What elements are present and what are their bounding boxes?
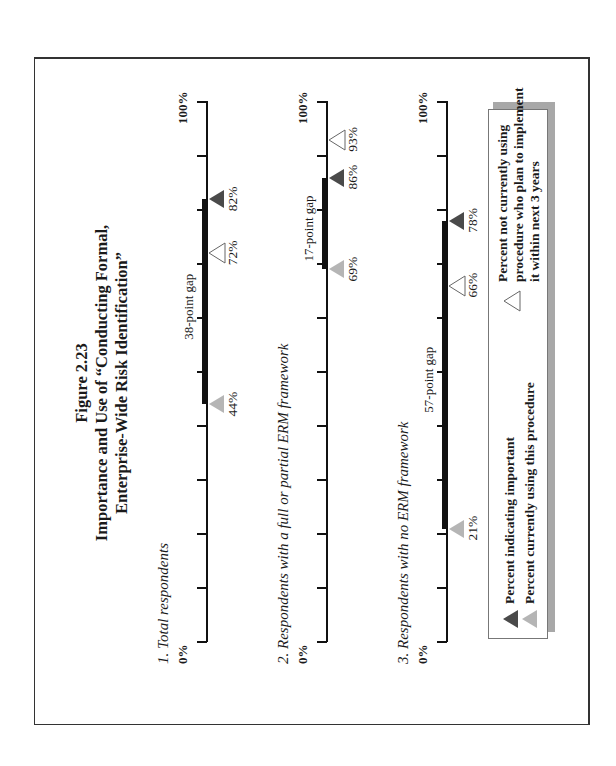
legend-plan-line1: Percent not currently using [495,125,511,282]
legend-plan-line3: it within next 3 years [527,161,543,282]
axis-max-label: 100% [175,92,191,125]
gap-bar [202,199,206,404]
important-value: 82% [225,186,241,211]
axis-tick [437,533,447,535]
axis-tick [317,533,327,535]
figure-title-line1: Importance and Use of “Conducting Formal… [92,0,112,766]
using-triangle-icon [522,610,537,628]
legend: Percent indicating important Percent cur… [488,109,548,639]
using-value: 69% [345,257,361,282]
rotated-page: Figure 2.23 Importance and Use of “Condu… [0,0,616,766]
plan-value: 72% [225,240,241,265]
axis-tick [317,479,327,481]
figure-title: Figure 2.23 Importance and Use of “Condu… [72,0,132,766]
axis-tick [317,641,327,643]
important-value: 86% [345,165,361,190]
axis-tick [437,209,447,211]
plan-marker-icon [448,275,466,297]
axis-max-label: 100% [295,92,311,125]
important-marker-icon [209,190,224,208]
using-marker-icon [209,395,224,413]
axis-tick [437,101,447,103]
axis-tick [197,155,207,157]
axis-tick [197,101,207,103]
axis-tick [317,587,327,589]
axis-tick [437,641,447,643]
gap-label: 38-point gap [181,274,197,340]
axis-tick [197,533,207,535]
axis-min-label: 0% [295,645,311,665]
gap-label: 17-point gap [301,195,317,261]
legend-important: Percent indicating important [502,437,518,604]
chart-label: 2. Respondents with a full or partial ER… [275,344,292,664]
axis-min-label: 0% [415,645,431,665]
chart-label: 1. Total respondents [155,543,172,664]
plan-marker-icon [328,129,346,151]
gap-bar [442,221,446,529]
axis-tick [317,155,327,157]
gap-bar [322,178,326,270]
axis-tick [317,101,327,103]
axis-tick [317,371,327,373]
using-marker-icon [329,260,344,278]
plan-marker-icon [208,242,226,264]
axis-tick [317,317,327,319]
important-value: 78% [465,208,481,233]
using-marker-icon [449,520,464,538]
important-triangle-icon [503,610,518,628]
figure-number: Figure 2.23 [72,0,92,766]
important-marker-icon [449,212,464,230]
axis-tick [197,641,207,643]
using-value: 21% [465,516,481,541]
axis-min-label: 0% [175,645,191,665]
plan-value: 93% [345,127,361,152]
axis-tick [197,587,207,589]
using-value: 44% [225,392,241,417]
gap-label: 57-point gap [421,347,437,413]
axis-tick [197,425,207,427]
plan-value: 66% [465,273,481,298]
axis-tick [437,155,447,157]
axis-max-label: 100% [415,92,431,125]
axis-tick [197,479,207,481]
chart-label: 3. Respondents with no ERM framework [395,422,412,664]
figure-title-line2: Enterprise-Wide Risk Identification” [112,0,132,766]
important-marker-icon [329,169,344,187]
legend-plan-line2: procedure who plan to implement [511,87,527,282]
axis-tick [317,425,327,427]
legend-using: Percent currently using this procedure [522,382,538,604]
plan-triangle-icon [503,290,521,312]
axis-tick [437,587,447,589]
